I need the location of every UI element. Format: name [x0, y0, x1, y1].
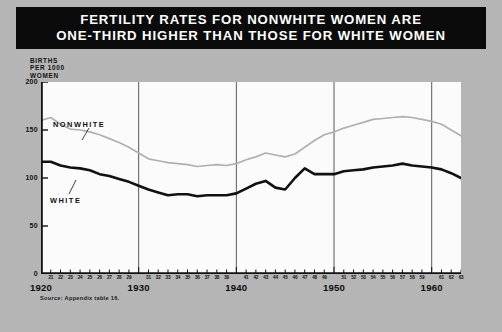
- series-label-white: WHITE: [50, 196, 81, 205]
- series-label-nonwhite: NONWHITE: [53, 120, 105, 129]
- x-tick-label-1939: 39: [221, 275, 233, 280]
- x-tick-label-1920: 1920: [21, 282, 61, 293]
- y-tick-label-100: 100: [12, 174, 38, 181]
- x-tick-label-1929: 29: [123, 275, 135, 280]
- chart-title-banner: FERTILITY RATES FOR NONWHITE WOMEN ARE O…: [16, 7, 486, 49]
- x-tick-label-1963: 63: [455, 275, 467, 280]
- title-line-1: FERTILITY RATES FOR NONWHITE WOMEN ARE: [80, 12, 422, 28]
- y-axis-caption: BIRTHS PER 1000 WOMEN: [30, 57, 65, 79]
- leader-line-white: [69, 180, 76, 194]
- y-axis-caption-line-1: BIRTHS: [30, 57, 65, 64]
- x-tick-label-1940: 1940: [216, 282, 256, 293]
- x-tick-label-1930: 1930: [119, 282, 159, 293]
- x-tick-label-1950: 1950: [314, 282, 354, 293]
- plot-area: [41, 82, 461, 274]
- source-note: Source: Appendix table 16.: [40, 295, 119, 301]
- y-tick-label-50: 50: [12, 222, 38, 229]
- y-tick-label-150: 150: [12, 126, 38, 133]
- title-line-2: ONE-THIRD HIGHER THAN THOSE FOR WHITE WO…: [56, 28, 446, 44]
- x-tick-label-1949: 49: [318, 275, 330, 280]
- plot-canvas: [41, 82, 461, 274]
- chart-figure: FERTILITY RATES FOR NONWHITE WOMEN ARE O…: [0, 0, 502, 332]
- series-line-white: [41, 162, 461, 197]
- x-tick-label-1959: 59: [416, 275, 428, 280]
- y-tick-label-200: 200: [12, 78, 38, 85]
- y-axis-caption-line-2: PER 1000: [30, 64, 65, 71]
- x-tick-label-1960: 1960: [412, 282, 452, 293]
- y-tick-label-0: 0: [12, 270, 38, 277]
